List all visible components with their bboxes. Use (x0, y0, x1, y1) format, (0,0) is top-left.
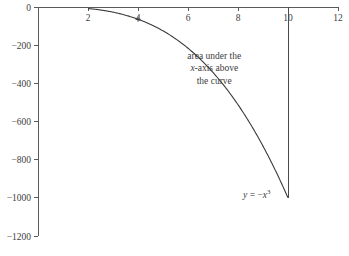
annotation-line: area under the (187, 51, 241, 61)
equation-label: y = −x3 (242, 188, 271, 200)
chart-figure: 24681012 0−200−400−600−800−1000−1200 are… (0, 0, 349, 256)
y-tick-label: 0 (26, 3, 31, 13)
annotation-line: x-axis above (189, 63, 238, 73)
y-tick-label: −800 (11, 155, 31, 165)
y-tick-label: −200 (11, 41, 31, 51)
y-tick-label: −1200 (7, 232, 32, 242)
x-tick-label: 12 (333, 13, 343, 23)
annotation-line: the curve (197, 76, 232, 86)
y-tick-label: −400 (11, 79, 31, 89)
x-tick-label: 6 (186, 13, 191, 23)
y-tick-label: −600 (11, 117, 31, 127)
function-plot-svg: 24681012 0−200−400−600−800−1000−1200 are… (0, 0, 349, 256)
x-tick-label: 2 (86, 13, 91, 23)
equation-text: y = −x3 (242, 188, 271, 200)
y-tick-label: −1000 (7, 193, 32, 203)
x-tick-label: 8 (236, 13, 241, 23)
